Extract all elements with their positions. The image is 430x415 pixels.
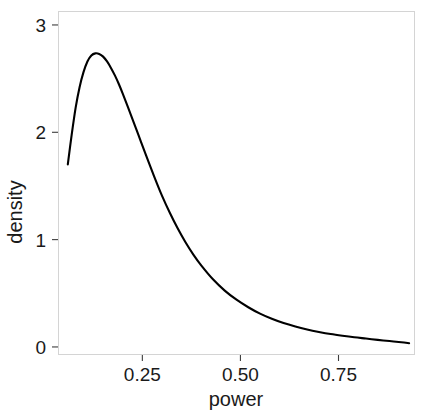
density-plot: 0123 0.250.500.75 power density (0, 0, 430, 415)
plot-svg: 0123 0.250.500.75 power density (0, 0, 430, 415)
x-tick-label: 0.50 (222, 364, 259, 385)
x-tick-label: 0.25 (124, 364, 161, 385)
y-axis-ticks: 0123 (35, 15, 58, 358)
y-tick-label: 0 (35, 337, 46, 358)
x-tick-label: 0.75 (320, 364, 357, 385)
plot-panel-background (58, 11, 415, 355)
y-tick-label: 3 (35, 15, 46, 36)
x-axis-ticks: 0.250.500.75 (124, 355, 357, 385)
x-axis-title: power (209, 388, 264, 410)
y-axis-title: density (4, 180, 26, 243)
y-tick-label: 1 (35, 230, 46, 251)
y-tick-label: 2 (35, 122, 46, 143)
